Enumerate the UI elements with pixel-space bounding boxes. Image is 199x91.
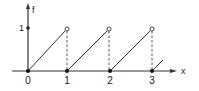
x-tick-label-1: 1 xyxy=(64,75,70,86)
ramp-segment-0 xyxy=(28,30,66,71)
open-endpoint-2 xyxy=(107,27,111,31)
ramp-segment-1 xyxy=(67,30,108,71)
closed-point-0 xyxy=(26,69,30,73)
y-tick-label-1: 1 xyxy=(19,23,24,33)
x-tick-label-3: 3 xyxy=(149,75,155,86)
open-endpoint-3 xyxy=(150,27,154,31)
y-axis-label: f xyxy=(32,5,35,15)
x-tick-label-2: 2 xyxy=(107,75,113,86)
closed-point-1 xyxy=(65,69,69,73)
y-axis-arrow-icon xyxy=(26,3,30,9)
x-axis-label: x xyxy=(181,66,186,76)
closed-point-2 xyxy=(108,69,112,73)
sawtooth-diagram: f x 1 0 1 2 3 xyxy=(0,0,199,91)
x-axis-arrow-icon xyxy=(170,69,177,73)
closed-point-3 xyxy=(150,69,154,73)
x-tick-label-0: 0 xyxy=(25,75,31,86)
open-endpoint-1 xyxy=(65,27,69,31)
ramp-segment-2 xyxy=(110,30,151,71)
y-value-one-dot xyxy=(26,26,30,30)
ramp-segment-3-partial xyxy=(152,60,163,71)
